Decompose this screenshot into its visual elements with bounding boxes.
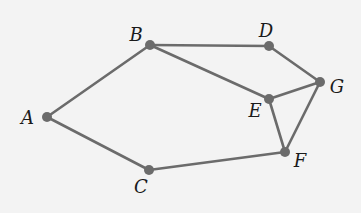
node-f (280, 147, 290, 157)
node-label-g: G (330, 76, 344, 97)
edge-a-b (47, 45, 150, 117)
node-c (144, 165, 154, 175)
edges-group (47, 45, 320, 170)
node-d (264, 41, 274, 51)
graph-diagram: ABCDEFG (0, 0, 361, 213)
node-label-c: C (134, 176, 148, 197)
node-g (315, 77, 325, 87)
edge-c-f (149, 152, 285, 170)
node-label-d: D (258, 20, 274, 41)
node-e (264, 94, 274, 104)
edge-b-d (150, 45, 269, 46)
edge-a-c (47, 117, 149, 170)
node-a (42, 112, 52, 122)
node-label-a: A (19, 107, 34, 128)
edge-b-e (150, 45, 269, 99)
node-label-b: B (128, 24, 142, 45)
edge-d-g (269, 46, 320, 82)
node-b (145, 40, 155, 50)
node-label-e: E (247, 100, 261, 121)
edge-e-f (269, 99, 285, 152)
node-label-f: F (293, 150, 308, 171)
